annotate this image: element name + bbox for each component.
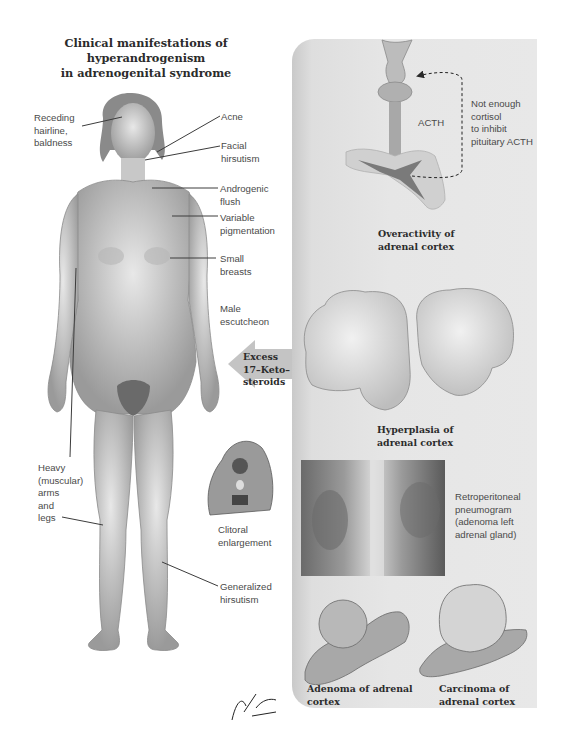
caption-pneumogram: Retroperitoneal pneumogram (adenoma left… bbox=[455, 491, 521, 541]
hyperplasia-illustration bbox=[304, 288, 513, 410]
label-acth: ACTH bbox=[418, 117, 444, 130]
pneumogram-xray-image bbox=[301, 460, 445, 576]
human-figure-illustration bbox=[48, 93, 219, 651]
label-acne: Acne bbox=[221, 111, 243, 124]
label-facial-hirsutism: Facial hirsutism bbox=[221, 140, 259, 165]
label-heavy-arms-legs: Heavy (muscular) arms and legs bbox=[38, 462, 83, 525]
caption-carcinoma: Carcinoma of adrenal cortex bbox=[439, 683, 515, 708]
clitoral-enlargement-illustration bbox=[208, 441, 273, 515]
label-receding-hairline: Receding hairline, baldness bbox=[34, 112, 75, 150]
label-clitoral-enlargement: Clitoral enlargement bbox=[218, 524, 271, 549]
label-variable-pigmentation: Variable pigmentation bbox=[220, 212, 275, 237]
caption-hyperplasia: Hyperplasia of adrenal cortex bbox=[377, 424, 453, 449]
carcinoma-illustration bbox=[420, 585, 527, 677]
label-feedback: Not enough cortisol to inhibit pituitary… bbox=[471, 98, 533, 148]
adenoma-illustration bbox=[305, 600, 409, 685]
caption-adenoma: Adenoma of adrenal cortex bbox=[307, 683, 413, 708]
pituitary-acth-illustration bbox=[346, 40, 462, 209]
label-generalized-hirsutism: Generalized hirsutism bbox=[220, 581, 272, 606]
netter-signature bbox=[232, 694, 276, 720]
label-male-escutcheon: Male escutcheon bbox=[220, 303, 269, 328]
label-excess-17-ketosteroids: Excess 17–Keto– steroids bbox=[243, 351, 290, 389]
label-androgenic-flush: Androgenic flush bbox=[220, 183, 269, 208]
label-small-breasts: Small breasts bbox=[220, 253, 251, 278]
acth-arrow-shaft bbox=[389, 102, 401, 160]
caption-overactivity: Overactivity of adrenal cortex bbox=[378, 228, 455, 253]
